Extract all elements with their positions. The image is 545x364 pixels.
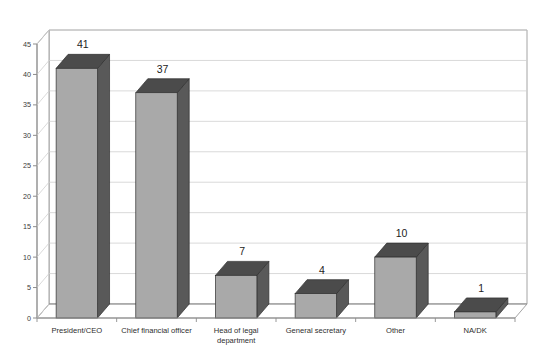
chart-frame <box>37 30 527 318</box>
bar-value-label: 4 <box>319 264 325 276</box>
x-axis-category-label: Head of legaldepartment <box>214 326 259 345</box>
bar-column <box>56 54 109 318</box>
x-axis-category-label: Other <box>386 326 405 335</box>
x-axis-category-label: General secretary <box>286 326 347 335</box>
y-axis-tick-label: 15 <box>23 222 31 231</box>
bar-value-label: 7 <box>239 245 245 257</box>
y-axis-tick-label: 45 <box>23 40 31 49</box>
y-axis-tick-label: 35 <box>23 100 31 109</box>
x-axis-category-label: NA/DK <box>464 326 487 335</box>
chart-container: 051015202530354045 President/CEOChief fi… <box>0 0 545 364</box>
x-axis <box>37 318 515 322</box>
bar-column <box>375 243 428 318</box>
bar-value-label: 1 <box>478 282 484 294</box>
bar-value-label: 37 <box>157 63 169 75</box>
x-axis-category-label: President/CEO <box>52 326 103 335</box>
bar-value-label: 10 <box>396 227 408 239</box>
y-axis-tick-label: 20 <box>23 192 31 201</box>
bar-chart-3d: 051015202530354045 President/CEOChief fi… <box>0 0 545 364</box>
x-axis-category-label: Chief financial officer <box>121 326 192 335</box>
y-axis-tick-label: 40 <box>23 70 31 79</box>
y-axis: 051015202530354045 <box>23 40 37 323</box>
y-axis-tick-label: 10 <box>23 253 31 262</box>
y-axis-tick-label: 0 <box>27 314 31 323</box>
bar-column <box>136 79 189 318</box>
y-axis-tick-label: 30 <box>23 131 31 140</box>
bar-value-label: 41 <box>77 38 89 50</box>
y-axis-tick-label: 5 <box>27 283 31 292</box>
category-labels: President/CEOChief financial officerHead… <box>52 326 487 345</box>
bar-column <box>295 280 348 318</box>
bar-column <box>215 261 268 318</box>
y-axis-tick-label: 25 <box>23 161 31 170</box>
